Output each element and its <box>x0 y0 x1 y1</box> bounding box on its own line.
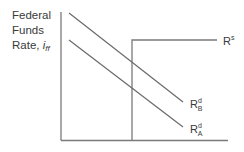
demand-b-label-base: R <box>190 98 198 110</box>
demand-a-label-base: R <box>190 123 198 135</box>
demand-b-label: RdB <box>190 97 203 112</box>
supply-curve <box>132 40 217 141</box>
demand-curve-a <box>69 40 183 127</box>
demand-curve-b <box>69 13 183 102</box>
demand-a-label: RdA <box>190 122 203 137</box>
demand-b-label-sub: B <box>198 105 203 112</box>
demand-a-label-sub: A <box>198 130 203 137</box>
supply-label-base: R <box>223 35 231 47</box>
diagram-canvas <box>0 0 244 152</box>
demand-b-label-sup: d <box>198 97 202 104</box>
supply-label-sup: s <box>231 34 235 41</box>
demand-a-label-sup: d <box>198 122 202 129</box>
supply-label: Rs <box>223 34 234 47</box>
